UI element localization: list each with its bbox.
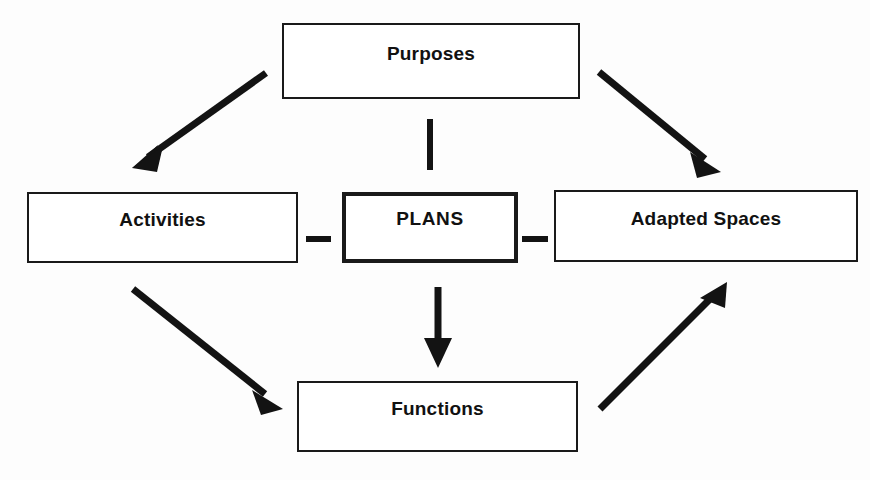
node-functions[interactable]: Functions (297, 381, 578, 452)
connector-functions-to-adapted-spaces (600, 282, 727, 409)
connector-purposes-to-activities (132, 73, 266, 172)
node-plans-label: PLANS (396, 209, 463, 228)
node-functions-label: Functions (391, 399, 484, 418)
node-activities[interactable]: Activities (27, 192, 298, 263)
node-activities-label: Activities (119, 210, 205, 229)
connector-purposes-to-adapted-spaces (599, 72, 721, 178)
node-adapted-spaces-label: Adapted Spaces (631, 209, 782, 228)
node-plans[interactable]: PLANS (342, 192, 518, 263)
connector-plans-to-functions (424, 287, 452, 368)
connector-activities-to-functions (133, 289, 283, 415)
diagram-canvas: Purposes Activities PLANS Adapted Spaces… (0, 0, 870, 480)
node-adapted-spaces[interactable]: Adapted Spaces (554, 190, 858, 262)
node-purposes[interactable]: Purposes (282, 23, 580, 99)
node-purposes-label: Purposes (387, 44, 475, 63)
